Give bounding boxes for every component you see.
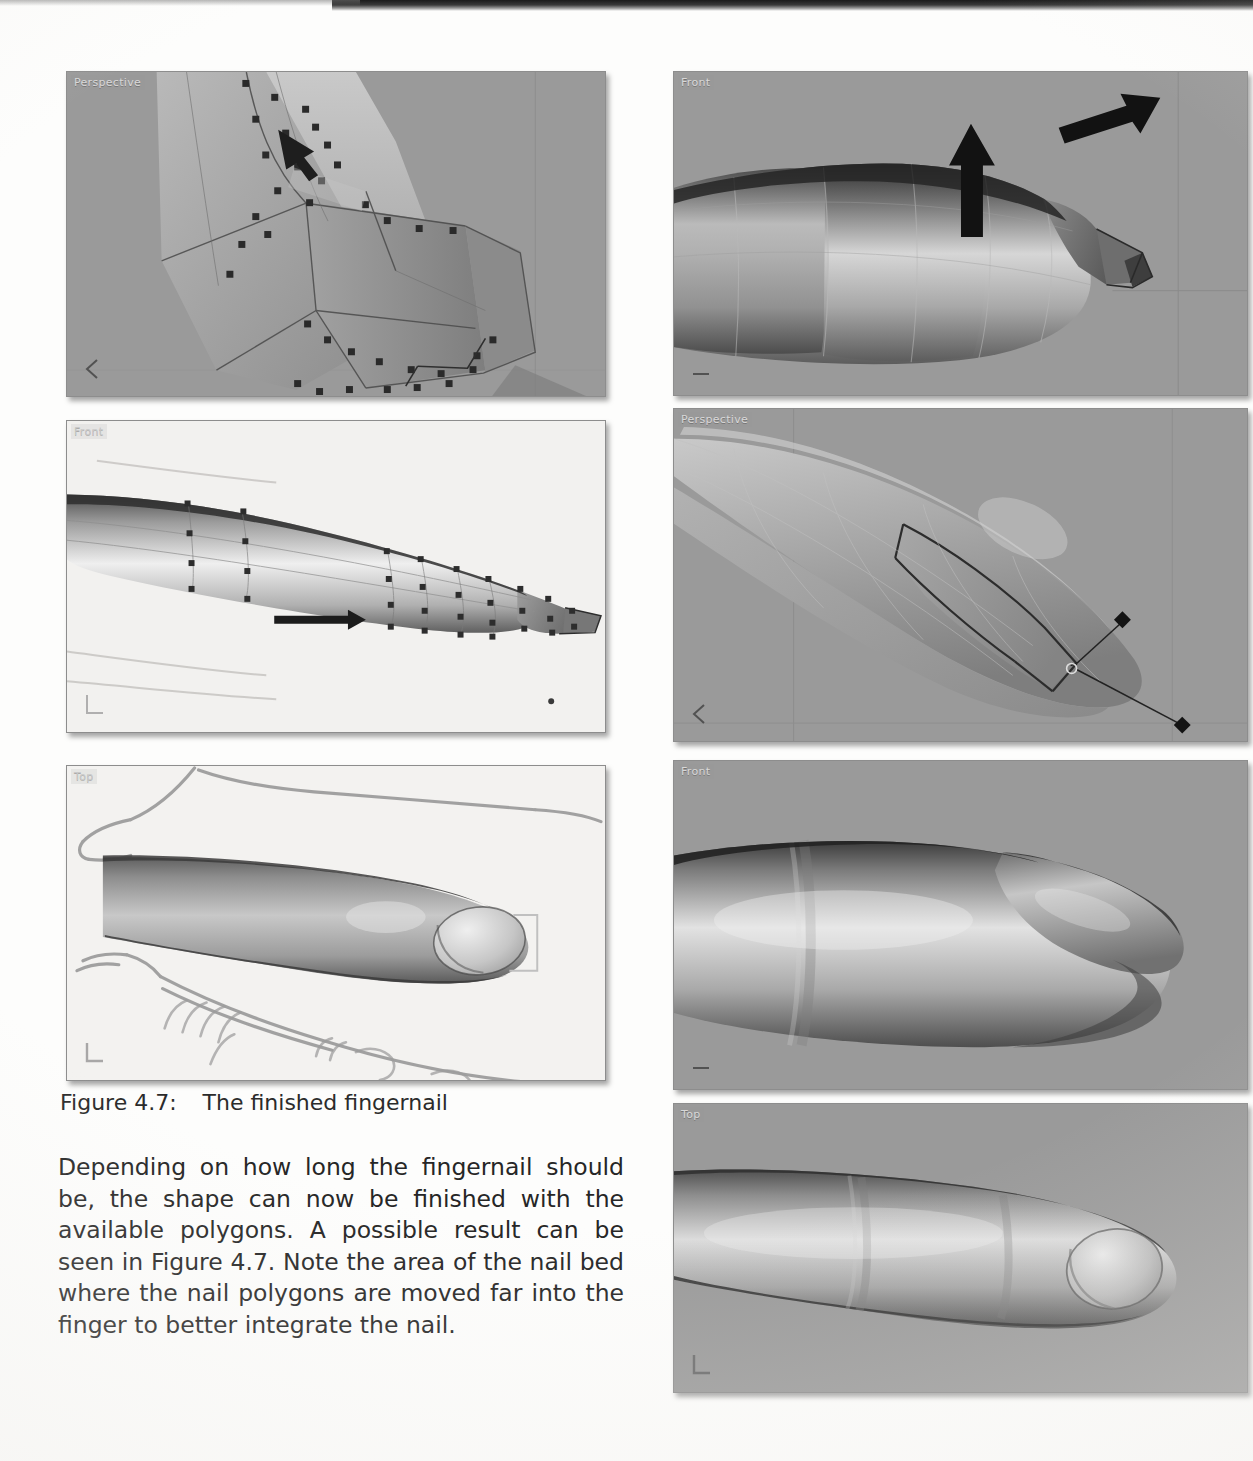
viewport-perspective-middle-right[interactable]: Perspective — [673, 408, 1248, 742]
axis-gizmo-chevron-left-icon — [81, 356, 107, 382]
figure-caption-text: The finished fingernail — [203, 1090, 448, 1115]
figure-caption: Figure 4.7:The finished fingernail — [60, 1088, 620, 1118]
page-edge-shadow-secondary — [0, 0, 360, 6]
body-paragraph: Depending on how long the fingernail sho… — [58, 1152, 624, 1341]
viewport-label: Front — [678, 75, 714, 90]
viewport-front-middle-left[interactable]: Front — [66, 420, 606, 733]
viewport-render-canvas — [67, 72, 605, 396]
viewport-render-canvas — [674, 409, 1247, 741]
page-edge-shadow — [332, 0, 1253, 11]
figure-caption-block: Figure 4.7:The finished fingernail — [60, 1088, 620, 1118]
viewport-label: Top — [71, 769, 97, 784]
viewport-perspective-top-left[interactable]: Perspective — [66, 71, 606, 397]
viewport-front-top-right[interactable]: Front — [673, 71, 1248, 396]
viewport-render-canvas — [674, 1104, 1247, 1392]
viewport-label: Perspective — [678, 412, 752, 427]
scanned-page: Perspective — [0, 0, 1253, 1461]
body-text-block: Depending on how long the fingernail sho… — [58, 1152, 624, 1341]
viewport-render-canvas — [674, 72, 1247, 395]
axis-gizmo-dash-icon — [688, 1049, 714, 1075]
axis-gizmo-corner-l-icon — [81, 1040, 107, 1066]
viewport-label: Front — [678, 764, 714, 779]
viewport-label: Perspective — [71, 75, 145, 90]
viewport-top-bottom-right-lower[interactable]: Top — [673, 1103, 1248, 1393]
axis-gizmo-corner-l-icon — [688, 1352, 714, 1378]
viewport-render-canvas — [674, 761, 1247, 1089]
viewport-top-bottom-left[interactable]: Top — [66, 765, 606, 1081]
axis-gizmo-corner-l-icon — [81, 692, 107, 718]
viewport-render-canvas — [67, 421, 605, 732]
figure-number: Figure 4.7: — [60, 1090, 177, 1115]
viewport-render-canvas — [67, 766, 605, 1080]
viewport-front-bottom-right-upper[interactable]: Front — [673, 760, 1248, 1090]
axis-gizmo-chevron-left-icon — [688, 701, 714, 727]
viewport-label: Top — [678, 1107, 704, 1122]
viewport-label: Front — [71, 424, 107, 439]
axis-gizmo-dash-icon — [688, 355, 714, 381]
